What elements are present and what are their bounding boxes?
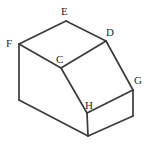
edge-C-D <box>61 41 106 68</box>
edge-A-B <box>19 100 88 136</box>
vertex-label-H: H <box>85 100 93 111</box>
edge-C-H <box>61 68 87 113</box>
edge-H-G <box>87 90 133 113</box>
vertex-label-F: F <box>6 38 12 49</box>
edge-H-B <box>87 113 88 136</box>
edge-B-I <box>88 116 133 136</box>
vertex-label-G: G <box>134 75 142 86</box>
edge-F-E <box>19 21 66 44</box>
edge-E-D <box>66 21 106 41</box>
edge-D-G <box>106 41 133 90</box>
vertex-label-C: C <box>56 54 63 65</box>
edge-F-C <box>19 44 61 68</box>
isometric-figure-svg <box>0 0 148 147</box>
vertex-label-E: E <box>61 6 68 17</box>
vertex-label-D: D <box>106 27 114 38</box>
edge-group <box>19 21 133 136</box>
isometric-figure-container: E F D C G H <box>0 0 148 147</box>
